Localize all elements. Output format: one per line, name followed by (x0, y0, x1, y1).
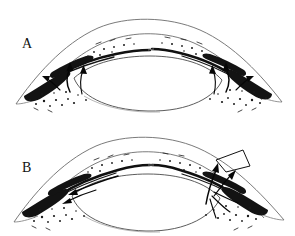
panel-a-label: A (22, 36, 33, 51)
figure-container: A (0, 0, 295, 236)
anterior-segment-figure: A (0, 0, 295, 236)
panel-b-label: B (22, 160, 31, 175)
